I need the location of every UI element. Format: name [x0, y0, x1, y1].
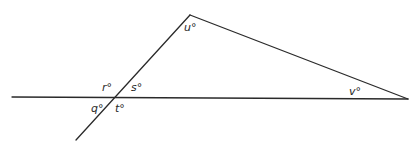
- left-side-line: [76, 15, 190, 140]
- angle-label-s: s°: [131, 81, 142, 94]
- right-side-line: [190, 15, 408, 99]
- angle-label-r: r°: [102, 81, 112, 94]
- angle-label-t: t°: [115, 102, 125, 115]
- angle-label-q: q°: [91, 102, 103, 115]
- angle-diagram: u° r° s° q° t° v°: [0, 0, 419, 154]
- angle-label-u: u°: [184, 21, 196, 34]
- angle-label-v: v°: [349, 85, 361, 98]
